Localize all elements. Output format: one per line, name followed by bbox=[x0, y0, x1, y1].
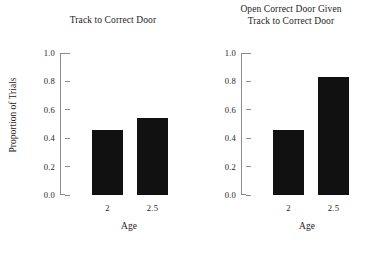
y-axis-spine-left bbox=[60, 53, 61, 195]
bar-right-age-2.5[interactable] bbox=[318, 77, 349, 195]
x-tick-label-2.5: 2.5 bbox=[328, 203, 339, 213]
panel-title-right-line2: Track to Correct Door bbox=[208, 16, 374, 28]
x-ticks-left: 2 2.5 bbox=[70, 195, 188, 215]
bar-group-left bbox=[70, 53, 188, 195]
panel-title-right-line1: Open Correct Door Given bbox=[208, 4, 374, 16]
bar-left-age-2.5[interactable] bbox=[137, 118, 168, 195]
plot-area-left: 1.0 0.8 0.6 0.4 0.2 0.0 bbox=[70, 53, 188, 195]
bar-right-age-2[interactable] bbox=[273, 130, 304, 195]
chart-panel-left: Track to Correct Door Proportion of Tria… bbox=[0, 0, 198, 258]
chart-panel-right: Open Correct Door Given Track to Correct… bbox=[198, 0, 380, 258]
figure: Track to Correct Door Proportion of Tria… bbox=[0, 0, 380, 258]
bar-left-age-2[interactable] bbox=[92, 130, 123, 195]
x-ticks-right: 2 2.5 bbox=[251, 195, 363, 215]
x-tick-label-2.5: 2.5 bbox=[147, 203, 158, 213]
y-axis-spine-right bbox=[241, 53, 242, 195]
panel-title-right: Open Correct Door Given Track to Correct… bbox=[208, 4, 374, 27]
x-axis-label-right: Age bbox=[251, 221, 363, 231]
x-tick-label-2: 2 bbox=[105, 203, 110, 213]
panel-title-left: Track to Correct Door bbox=[34, 15, 192, 27]
plot-area-right: 1.0 0.8 0.6 0.4 0.2 0.0 bbox=[251, 53, 363, 195]
x-tick-label-2: 2 bbox=[286, 203, 291, 213]
bar-group-right bbox=[251, 53, 363, 195]
x-axis-label-left: Age bbox=[70, 221, 188, 231]
y-axis-label: Proportion of Trials bbox=[8, 65, 18, 165]
